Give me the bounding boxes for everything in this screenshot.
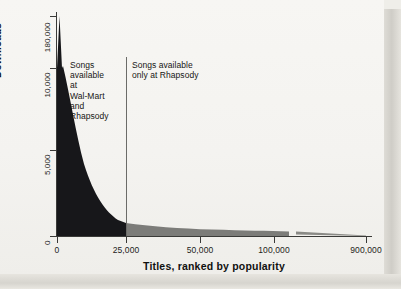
- divider-line-25000: [126, 57, 127, 236]
- x-tick-100000: [274, 237, 275, 243]
- annotation-left-line-3: at: [70, 80, 124, 90]
- chart-figure: 0 5,000 10,000 180,000 0 25,000 50,000 1…: [0, 0, 401, 289]
- annotation-left-line-2: available: [70, 70, 124, 80]
- x-tick-25000: [126, 237, 127, 243]
- y-axis-line: [56, 12, 57, 237]
- y-tick-5000: [50, 150, 56, 151]
- annotation-left-line-4: Wal-Mart: [70, 91, 124, 101]
- annotation-right-line-2: only at Rhapsody: [132, 70, 242, 80]
- x-tick-label-25000: 25,000: [113, 245, 140, 255]
- annotation-right-line-1: Songs available: [132, 60, 242, 70]
- page-edge-shadow-right: [384, 0, 401, 289]
- x-tick-label-50000: 50,000: [187, 245, 214, 255]
- annotation-rhapsody-only: Songs available only at Rhapsody: [132, 60, 242, 80]
- x-tick-900000: [366, 237, 367, 243]
- y-tick-label-180000: 180,000: [43, 23, 52, 53]
- x-tick-0: [57, 237, 58, 243]
- y-tick-label-10000: 10,000: [43, 73, 52, 98]
- y-tick-label-0: 0: [43, 241, 52, 246]
- y-tick-180000: [50, 16, 56, 17]
- y-tick-10000: [50, 68, 56, 69]
- y-tick-0: [50, 236, 56, 237]
- y-tick-label-5000: 5,000: [43, 155, 52, 176]
- x-axis-title: Titles, ranked by popularity: [56, 260, 372, 272]
- annotation-walmart-rhapsody: Songs available at Wal-Mart and Rhapsody: [70, 60, 124, 121]
- x-tick-label-900000: 900,000: [350, 245, 381, 255]
- x-axis-line: [56, 236, 372, 237]
- x-tick-label-100000: 100,000: [258, 245, 289, 255]
- x-tick-label-0: 0: [55, 245, 60, 255]
- paper-background: [0, 0, 386, 276]
- x-tick-50000: [200, 237, 201, 243]
- annotation-left-line-5: and: [70, 101, 124, 111]
- page-edge-shadow-bottom: [0, 274, 401, 289]
- page-corner-highlight: [384, 0, 401, 9]
- annotation-left-line-6: Rhapsody: [70, 111, 124, 121]
- annotation-left-line-1: Songs: [70, 60, 124, 70]
- y-axis-title: Downloads: [0, 23, 3, 78]
